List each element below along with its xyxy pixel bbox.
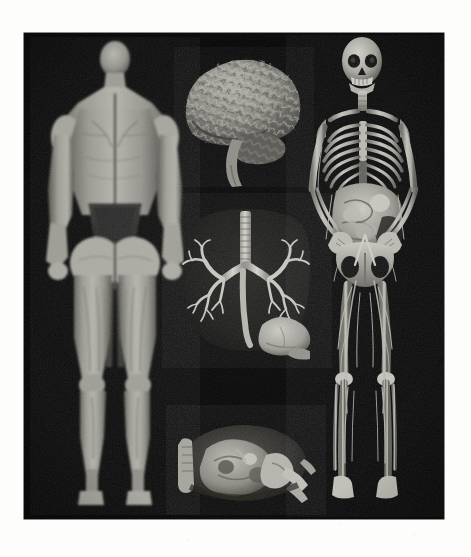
figure-page [0,0,471,557]
panel-skeletal-figure [286,35,444,517]
photographic-plate [24,33,444,519]
